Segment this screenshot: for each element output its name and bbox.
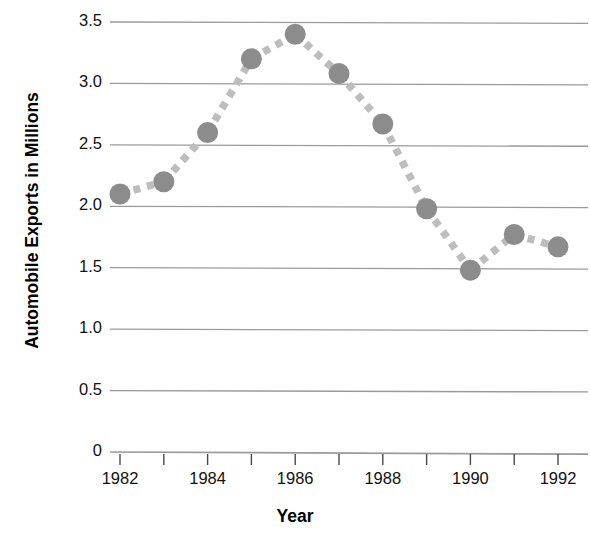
y-axis-tick-label: 0.5	[20, 380, 102, 399]
x-axis-tick-label: 1986	[250, 469, 340, 488]
series-points	[110, 24, 569, 281]
series-segment	[427, 209, 471, 270]
series-segment	[208, 59, 252, 133]
y-axis-tick-label: 0	[20, 441, 102, 460]
data-point	[372, 113, 393, 134]
x-axis-title: Year	[0, 506, 590, 527]
data-point	[197, 122, 218, 143]
data-point	[504, 224, 525, 245]
y-axis-title-text: Automobile Exports in Millions	[22, 92, 42, 349]
data-point	[110, 184, 131, 205]
y-axis-tick-label: 3.5	[20, 11, 102, 30]
data-point	[241, 48, 262, 69]
x-axis-tick-label: 1988	[338, 469, 428, 488]
data-point	[329, 63, 350, 84]
data-point	[416, 198, 437, 219]
gridline	[110, 452, 588, 454]
data-point	[548, 236, 569, 257]
gridline	[110, 391, 588, 392]
x-axis-ticks	[120, 454, 558, 465]
data-point	[153, 171, 174, 192]
x-axis-tick-label: 1990	[425, 469, 515, 488]
series-segment	[383, 124, 427, 209]
x-axis-title-text: Year	[277, 506, 314, 526]
y-axis-title: Automobile Exports in Millions	[22, 71, 43, 371]
x-axis-tick-label: 1982	[75, 469, 165, 488]
gridline	[110, 206, 588, 207]
gridline	[110, 22, 588, 23]
x-axis-tick-label: 1992	[513, 469, 590, 488]
data-point	[285, 24, 306, 45]
x-axis-tick-label: 1984	[163, 469, 253, 488]
data-point	[460, 260, 481, 281]
chart-container: 3.53.02.52.01.51.00.50 19821984198619881…	[0, 0, 590, 547]
gridline	[110, 268, 588, 269]
gridline	[110, 145, 588, 146]
gridline	[110, 329, 588, 330]
